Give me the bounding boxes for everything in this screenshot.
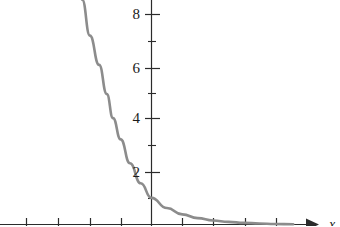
y-tick-label-6: 6	[122, 61, 140, 76]
y-tick-label-8: 8	[122, 7, 140, 22]
x-axis-arrowhead	[306, 219, 319, 227]
exponential-decay-curve	[82, 0, 293, 224]
y-tick-label-4: 4	[122, 111, 140, 126]
x-axis-label: x	[329, 218, 335, 226]
y-tick-label-2: 2	[122, 165, 140, 180]
plot-area	[0, 0, 340, 226]
chart-figure: 8 6 4 2 x	[0, 0, 340, 226]
